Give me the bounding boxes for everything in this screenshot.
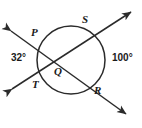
secant-line-T-S	[12, 12, 131, 89]
point-label-p: P	[31, 27, 38, 38]
angle-measure-left: 32°	[11, 53, 26, 63]
point-label-s: S	[82, 14, 88, 25]
point-label-r: R	[94, 85, 101, 96]
angle-measure-right: 100°	[112, 53, 133, 63]
geometry-figure: P S Q T R 32° 100°	[0, 0, 142, 128]
point-label-t: T	[32, 79, 39, 90]
point-label-q: Q	[54, 66, 62, 77]
geometry-canvas	[0, 0, 142, 128]
secant-line-P-R	[11, 31, 126, 114]
